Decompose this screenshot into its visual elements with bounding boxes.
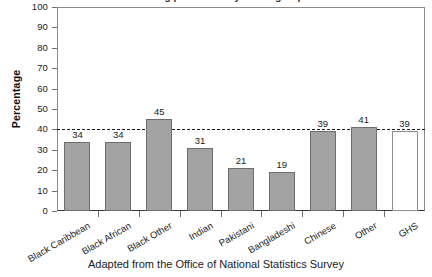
x-tick-mark — [139, 211, 140, 217]
y-tick-label: 80 — [37, 41, 48, 54]
y-tick-label: 50 — [37, 102, 48, 115]
bar-value-label: 34 — [98, 129, 138, 140]
bar-value-label: 34 — [57, 129, 97, 140]
y-tick-label: 10 — [37, 184, 48, 197]
y-tick-label: 40 — [37, 122, 48, 135]
y-tick-mark — [52, 7, 57, 8]
bar — [351, 127, 377, 211]
y-tick-mark — [52, 211, 57, 212]
y-tick-label: 0 — [43, 204, 48, 217]
bar-value-label: 39 — [303, 118, 343, 129]
y-tick-mark — [52, 191, 57, 192]
chart-title-cropped: Smoking prevalence by ethnic group — [0, 0, 432, 3]
bar-value-label: 31 — [180, 135, 220, 146]
bar — [105, 142, 131, 211]
bar-value-label: 19 — [262, 159, 302, 170]
bar — [228, 168, 254, 211]
y-tick-mark — [52, 109, 57, 110]
x-tick-mark — [384, 211, 385, 217]
y-tick-mark — [52, 27, 57, 28]
y-tick-label: 90 — [37, 20, 48, 33]
y-tick-label: 30 — [37, 143, 48, 156]
x-tick-mark — [343, 211, 344, 217]
bar — [146, 119, 172, 211]
bar — [310, 131, 336, 211]
y-tick-mark — [52, 170, 57, 171]
y-tick-label: 100 — [32, 0, 48, 13]
bar — [64, 142, 90, 211]
bar-value-label: 21 — [221, 155, 261, 166]
bar-chart-figure: Smoking prevalence by ethnic group Perce… — [0, 0, 432, 277]
bar-value-label: 41 — [344, 114, 384, 125]
x-tick-mark — [180, 211, 181, 217]
x-tick-mark — [261, 211, 262, 217]
bar-value-label: 45 — [139, 106, 179, 117]
y-tick-mark — [52, 89, 57, 90]
bar — [392, 131, 418, 211]
bar — [187, 148, 213, 211]
y-tick-mark — [52, 68, 57, 69]
y-tick-label: 20 — [37, 163, 48, 176]
y-axis-title: Percentage — [10, 53, 22, 145]
x-tick-mark — [98, 211, 99, 217]
y-tick-label: 70 — [37, 61, 48, 74]
bar — [269, 172, 295, 211]
y-tick-mark — [52, 48, 57, 49]
x-tick-mark — [302, 211, 303, 217]
bar-value-label: 39 — [385, 118, 425, 129]
x-tick-mark — [221, 211, 222, 217]
y-tick-label: 60 — [37, 82, 48, 95]
figure-caption: Adapted from the Office of National Stat… — [0, 258, 432, 270]
y-tick-mark — [52, 150, 57, 151]
